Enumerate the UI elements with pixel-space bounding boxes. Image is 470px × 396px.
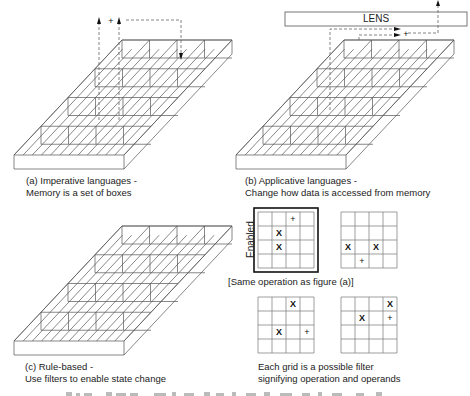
panel-a-title: (a) Imperative languages - (26, 175, 137, 187)
operator-marker: + (383, 311, 397, 325)
panel-a-up-arrowhead-1 (97, 17, 101, 24)
operand-marker: X (272, 325, 286, 339)
operand-marker: X (272, 226, 286, 240)
operand-marker: X (383, 297, 397, 311)
lens-label: LENS (285, 13, 467, 24)
cropped-caption-glyph-tops (66, 387, 396, 396)
panel-b-operand-path-2 (359, 35, 396, 40)
panel-c-memory-tray (14, 226, 232, 355)
filters-caption-line2: signifying operation and operands (258, 373, 401, 385)
operand-marker: X (341, 240, 355, 254)
panel-b-up-arrowhead (436, 0, 440, 6)
panel-c-subtitle: Use filters to enable state change (25, 373, 166, 385)
filters-caption-line1: Each grid is a possible filter (258, 361, 401, 373)
panel-a-result-arrow (126, 20, 181, 55)
panel-c-caption: (c) Rule-based - Use filters to enable s… (25, 361, 166, 385)
panel-a-caption: (a) Imperative languages - Memory is a s… (26, 175, 137, 199)
operator-marker: + (300, 325, 314, 339)
operand-marker: X (272, 240, 286, 254)
panel-a-memory-tray (14, 40, 232, 169)
operand-marker: X (369, 240, 383, 254)
operand-marker: X (286, 297, 300, 311)
filters-caption: Each grid is a possible filter signifyin… (258, 361, 401, 385)
enabled-label: Enabled (245, 221, 256, 258)
operand-marker: X (355, 311, 369, 325)
panel-b-title: (b) Applicative languages - (245, 175, 430, 187)
panel-a-subtitle: Memory is a set of boxes (26, 187, 137, 199)
panel-b-subtitle: Change how data is accessed from memory (245, 187, 430, 199)
panel-b-plus-operator: + (399, 27, 413, 41)
operator-marker: + (286, 212, 300, 226)
panel-b-memory-tray (236, 40, 454, 169)
same-operation-note: [Same operation as figure (a)] (228, 276, 354, 287)
panel-b-caption: (b) Applicative languages - Change how d… (245, 175, 430, 199)
operator-marker: + (355, 254, 369, 268)
cropped-figure-caption (66, 387, 396, 396)
panel-c-title: (c) Rule-based - (25, 361, 166, 373)
panel-a-plus-operator: + (104, 14, 118, 28)
